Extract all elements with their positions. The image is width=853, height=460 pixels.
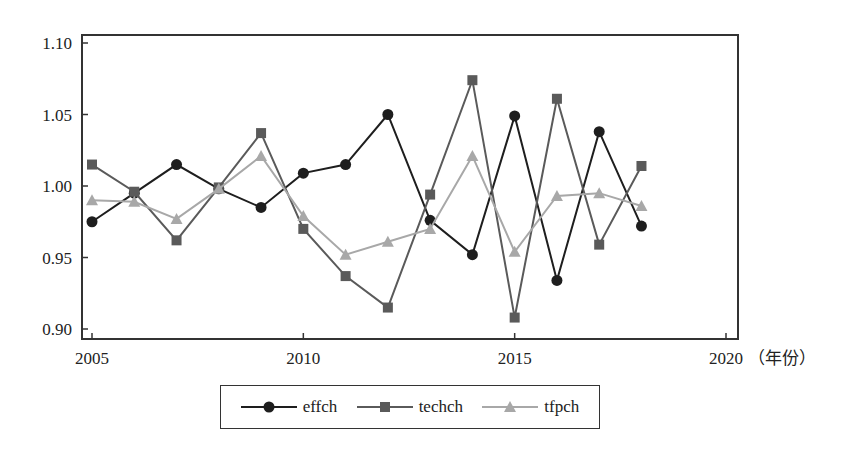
x-tick-label: 2015: [498, 349, 532, 368]
circle-marker-icon: [594, 126, 605, 137]
y-tick-label: 1.00: [42, 177, 72, 196]
square-marker-icon: [425, 190, 435, 200]
circle-marker-icon: [467, 249, 478, 260]
square-marker-icon: [383, 303, 393, 313]
triangle-marker-icon: [255, 150, 267, 161]
circle-marker-icon: [241, 400, 297, 414]
series-effch: [87, 109, 647, 286]
x-tick-label: 2005: [75, 349, 109, 368]
x-axis-unit-label: （年份）: [748, 349, 816, 368]
circle-marker-icon: [340, 159, 351, 170]
legend-label: techch: [419, 397, 463, 417]
triangle-marker-icon: [171, 213, 183, 224]
plot-frame: [82, 35, 738, 339]
circle-marker-icon: [509, 110, 520, 121]
y-tick-label: 0.95: [42, 249, 72, 268]
x-tick-label: 2010: [286, 349, 320, 368]
legend: effch techch tfpch: [220, 385, 600, 429]
plot-border: [82, 35, 738, 339]
circle-marker-icon: [382, 109, 393, 120]
y-tick-label: 0.90: [42, 320, 72, 339]
square-marker-icon: [172, 235, 182, 245]
x-tick-label: 2020: [709, 349, 743, 368]
circle-marker-icon: [636, 221, 647, 232]
square-marker-icon: [636, 161, 646, 171]
square-marker-icon: [298, 224, 308, 234]
circle-marker-icon: [298, 168, 309, 179]
y-tick-label: 1.05: [42, 106, 72, 125]
square-marker-icon: [552, 94, 562, 104]
square-marker-icon: [357, 400, 413, 414]
square-marker-icon: [129, 187, 139, 197]
square-marker-icon: [467, 75, 477, 85]
legend-item-tfpch: tfpch: [482, 397, 579, 417]
y-tick-label: 1.10: [42, 34, 72, 53]
square-marker-icon: [341, 271, 351, 281]
circle-marker-icon: [256, 202, 267, 213]
legend-item-effch: effch: [241, 397, 338, 417]
triangle-marker-icon: [466, 150, 478, 161]
square-marker-icon: [594, 240, 604, 250]
series-techch: [87, 75, 646, 322]
square-marker-icon: [510, 313, 520, 323]
circle-marker-icon: [171, 159, 182, 170]
circle-marker-icon: [87, 216, 98, 227]
square-marker-icon: [256, 128, 266, 138]
legend-label: effch: [303, 397, 338, 417]
series-tfpch: [86, 150, 647, 260]
circle-marker-icon: [551, 275, 562, 286]
legend-label: tfpch: [544, 397, 579, 417]
triangle-marker-icon: [482, 400, 538, 414]
legend-item-techch: techch: [357, 397, 463, 417]
series-layer: [86, 75, 647, 322]
square-marker-icon: [87, 160, 97, 170]
